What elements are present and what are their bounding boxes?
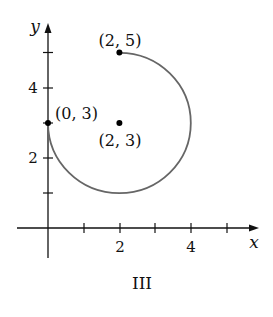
parametric-curve-diagram: 2 4 2 4 x y (2, 5) (0, 3) (2, 3) III <box>0 0 273 317</box>
x-tick-label-4: 4 <box>186 238 196 256</box>
x-axis-label: x <box>249 232 259 252</box>
point-2-5 <box>116 50 122 56</box>
y-tick-label-2: 2 <box>28 149 38 167</box>
point-label-2-5: (2, 5) <box>98 31 141 50</box>
point-2-3-center <box>116 120 122 126</box>
y-tick-label-4: 4 <box>28 79 38 97</box>
y-axis-label: y <box>29 16 40 36</box>
point-label-2-3: (2, 3) <box>98 131 141 150</box>
point-label-0-3: (0, 3) <box>55 104 98 123</box>
x-tick-label-2: 2 <box>115 238 125 256</box>
point-0-3 <box>45 120 51 126</box>
y-axis-arrow-icon <box>45 23 52 33</box>
figure-caption: III <box>132 273 152 293</box>
x-axis-arrow-icon <box>249 225 259 232</box>
